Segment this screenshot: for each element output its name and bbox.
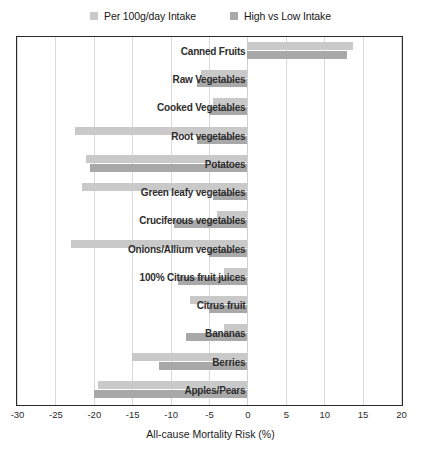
bar-row: Apples/Pears	[17, 381, 402, 399]
x-tick-label-0: 0	[245, 409, 250, 420]
bar-row: Citrus fruit	[17, 296, 402, 314]
legend-label-high-vs-low: High vs Low Intake	[244, 10, 331, 22]
bar-row: Root vegetables	[17, 127, 402, 145]
category-label: Citrus fruit	[197, 300, 246, 311]
bar-per-100g	[247, 42, 352, 50]
chart-legend: Per 100g/day Intake High vs Low Intake	[0, 10, 421, 22]
x-tick-label--5: -5	[205, 409, 213, 420]
category-label: 100% Citrus fruit juices	[140, 272, 246, 283]
category-label: Raw Vegetables	[173, 74, 246, 85]
x-tick-label--30: -30	[11, 409, 25, 420]
x-tick-label-20: 20	[396, 409, 407, 420]
bar-row: Canned Fruits	[17, 42, 402, 60]
category-label: Berries	[212, 357, 245, 368]
x-tick-label-15: 15	[358, 409, 369, 420]
bar-row: Cruciferous vegetables	[17, 211, 402, 229]
category-label: Apples/Pears	[184, 385, 245, 396]
bar-row: Berries	[17, 353, 402, 371]
bar-row: Green leafy vegetables	[17, 183, 402, 201]
x-tick-label--20: -20	[87, 409, 101, 420]
bar-row: 100% Citrus fruit juices	[17, 268, 402, 286]
bar-row: Cooked Vegetables	[17, 98, 402, 116]
bar-row: Potatoes	[17, 155, 402, 173]
bar-row: Bananas	[17, 324, 402, 342]
bar-row: Onions/Allium vegetables	[17, 240, 402, 258]
x-axis-title: All-cause Mortality Risk (%)	[0, 428, 421, 440]
chart-plot-area: Canned FruitsRaw VegetablesCooked Vegeta…	[16, 36, 403, 406]
bar-high-vs-low	[247, 51, 347, 59]
category-label: Onions/Allium vegetables	[128, 244, 245, 255]
x-axis-ticks: -30-25-20-15-10-505101520	[0, 409, 421, 423]
legend-label-per-100g: Per 100g/day Intake	[104, 10, 196, 22]
x-tick-label--10: -10	[164, 409, 178, 420]
x-tick-label--25: -25	[49, 409, 63, 420]
category-label: Green leafy vegetables	[141, 187, 246, 198]
legend-item-high-vs-low: High vs Low Intake	[230, 10, 331, 22]
chart-bars-layer: Canned FruitsRaw VegetablesCooked Vegeta…	[17, 37, 402, 405]
legend-swatch-per-100g	[90, 12, 98, 20]
category-label: Cooked Vegetables	[157, 102, 245, 113]
category-label: Cruciferous vegetables	[139, 215, 245, 226]
category-label: Root vegetables	[171, 131, 245, 142]
category-label: Potatoes	[205, 159, 246, 170]
legend-item-per-100g: Per 100g/day Intake	[90, 10, 196, 22]
category-label: Canned Fruits	[181, 46, 246, 57]
category-label: Bananas	[205, 328, 245, 339]
x-tick-label-5: 5	[284, 409, 289, 420]
x-tick-label--15: -15	[126, 409, 140, 420]
legend-swatch-high-vs-low	[230, 12, 238, 20]
bar-row: Raw Vegetables	[17, 70, 402, 88]
x-tick-label-10: 10	[319, 409, 330, 420]
